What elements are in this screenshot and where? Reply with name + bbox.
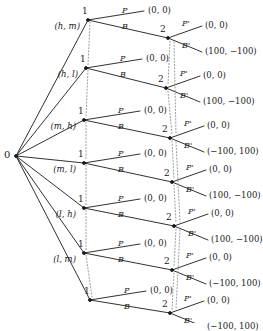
action-edge-B-4 bbox=[84, 208, 174, 226]
payoff-Pprime-3: (0, 0) bbox=[209, 165, 232, 174]
info-set-player2-span-0-2 bbox=[174, 42, 176, 134]
action-label-B-0: B bbox=[122, 23, 128, 31]
payoff-P-4: (0, 0) bbox=[144, 194, 167, 203]
action-edge-P-6 bbox=[90, 291, 146, 300]
action-edge-B-6 bbox=[90, 300, 170, 313]
chance-edge-6 bbox=[16, 156, 90, 300]
info-set-player1-0-1 bbox=[88, 22, 90, 65]
payoff-P-3: (0, 0) bbox=[144, 149, 167, 158]
payoff-Pprime-6: (0, 0) bbox=[207, 296, 230, 305]
player1-label-1: 1 bbox=[80, 55, 86, 64]
action-edge-B-0 bbox=[88, 20, 168, 38]
payoff-P-2: (0, 0) bbox=[144, 106, 167, 115]
action-label-Bprime-2: B' bbox=[184, 142, 192, 150]
chance-branch-label-2: (m, h) bbox=[50, 122, 76, 131]
info-set-player2-span-2-4 bbox=[176, 142, 180, 222]
payoff-Pprime-5: (0, 0) bbox=[209, 253, 232, 262]
action-edge-P-0 bbox=[88, 11, 144, 20]
action-edge-B-5 bbox=[84, 253, 172, 270]
action-edge-P-5 bbox=[84, 244, 140, 253]
payoff-P-0: (0, 0) bbox=[148, 6, 171, 15]
action-edge-B-3 bbox=[84, 163, 172, 182]
action-label-P-0: P bbox=[122, 7, 127, 15]
player2-label-0: 2 bbox=[160, 25, 166, 34]
payoff-Bprime-1: (100, −100) bbox=[203, 97, 255, 106]
payoff-Pprime-1: (0, 0) bbox=[203, 71, 226, 80]
info-set-player2-4-5 bbox=[174, 229, 176, 267]
player2-label-6: 2 bbox=[162, 300, 168, 309]
info-set-player1-1-2 bbox=[86, 70, 88, 117]
payoff-P-6: (0, 0) bbox=[150, 286, 173, 295]
player2-label-4: 2 bbox=[166, 213, 172, 222]
player2-label-5: 2 bbox=[164, 257, 170, 266]
info-set-player2-0-1 bbox=[168, 41, 170, 85]
action-edge-P-1 bbox=[86, 59, 142, 68]
action-edge-P-2 bbox=[84, 111, 140, 120]
player2-label-3: 2 bbox=[164, 169, 170, 178]
action-label-P-5: P bbox=[118, 240, 123, 248]
action-label-P-6: P bbox=[124, 287, 129, 295]
payoff-Bprime-5: (−100, 100) bbox=[209, 279, 261, 288]
payoff-P-1: (0, 0) bbox=[146, 54, 169, 63]
payoff-Bprime-0: (100, −100) bbox=[205, 47, 257, 56]
action-label-B-2: B bbox=[118, 123, 124, 131]
action-label-Pprime-1: P' bbox=[180, 70, 188, 78]
payoff-Bprime-3: (100, −100) bbox=[209, 191, 261, 200]
info-set-player2-2-3 bbox=[172, 141, 174, 179]
action-label-Pprime-5: P' bbox=[186, 252, 194, 260]
player2-label-2: 2 bbox=[162, 125, 168, 134]
player1-label-6: 1 bbox=[84, 287, 90, 296]
action-label-B-1: B bbox=[120, 71, 126, 79]
payoff-Pprime-4: (0, 0) bbox=[211, 209, 234, 218]
action-edge-B-1 bbox=[86, 68, 166, 88]
payoff-Pprime-0: (0, 0) bbox=[205, 21, 228, 30]
chance-branch-label-1: (h, l) bbox=[58, 70, 78, 79]
action-label-B-3: B bbox=[118, 166, 124, 174]
chance-edge-1 bbox=[16, 68, 86, 156]
action-label-Bprime-5: B' bbox=[186, 274, 194, 282]
player2-label-1: 2 bbox=[158, 75, 164, 84]
action-label-B-5: B bbox=[118, 256, 124, 264]
action-label-Bprime-0: B' bbox=[182, 42, 190, 50]
player1-label-5: 1 bbox=[78, 240, 84, 249]
payoff-P-5: (0, 0) bbox=[144, 239, 167, 248]
action-label-P-4: P bbox=[118, 195, 123, 203]
action-label-Pprime-4: P' bbox=[188, 208, 196, 216]
chance-branch-label-4: (l, h) bbox=[56, 210, 76, 219]
payoff-Pprime-2: (0, 0) bbox=[207, 121, 230, 130]
action-label-P-1: P bbox=[120, 55, 125, 63]
chance-branch-label-0: (h, m) bbox=[54, 22, 80, 31]
payoff-Bprime-2: (−100, 100) bbox=[207, 147, 259, 156]
chance-branch-label-5: (l, m) bbox=[53, 255, 76, 264]
player1-label-2: 1 bbox=[78, 107, 84, 116]
info-set-player2-span-4-6 bbox=[176, 230, 180, 309]
chance-edge-3 bbox=[16, 156, 84, 163]
player1-label-3: 1 bbox=[78, 150, 84, 159]
action-edge-P-4 bbox=[84, 199, 140, 208]
action-label-Bprime-6: B' bbox=[184, 317, 192, 325]
player1-label-0: 1 bbox=[82, 7, 88, 16]
action-label-Bprime-3: B' bbox=[186, 186, 194, 194]
action-label-Bprime-4: B' bbox=[188, 230, 196, 238]
chance-node-label: 0 bbox=[4, 150, 10, 160]
action-label-P-3: P bbox=[118, 150, 123, 158]
action-label-Pprime-3: P' bbox=[186, 164, 194, 172]
action-edge-P-3 bbox=[84, 154, 140, 163]
action-label-Bprime-1: B' bbox=[180, 92, 188, 100]
action-label-B-4: B bbox=[118, 211, 124, 219]
action-label-P-2: P bbox=[118, 107, 123, 115]
chance-edge-0 bbox=[16, 20, 88, 156]
action-label-Pprime-6: P' bbox=[184, 295, 192, 303]
chance-branch-label-3: (m, l) bbox=[53, 165, 76, 174]
action-label-Pprime-2: P' bbox=[184, 120, 192, 128]
player1-label-4: 1 bbox=[78, 195, 84, 204]
payoff-Bprime-4: (100, −100) bbox=[211, 235, 263, 244]
action-edge-B-2 bbox=[84, 120, 170, 138]
payoff-Bprime-6: (−100, 100) bbox=[207, 322, 259, 331]
action-label-B-6: B bbox=[124, 303, 130, 311]
action-label-Pprime-0: P' bbox=[182, 20, 190, 28]
info-set-player2-1-2 bbox=[168, 91, 172, 135]
info-set-player2-3-4 bbox=[174, 185, 176, 223]
